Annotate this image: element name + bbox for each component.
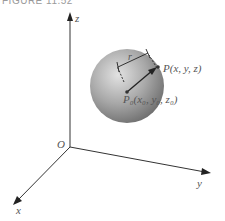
y-axis-label: y <box>196 177 202 189</box>
x-axis-label: x <box>15 204 21 216</box>
sphere-diagram: z y x O r P(x, y, z) P₀(x₀, y₀, z₀) <box>0 0 225 221</box>
z-axis <box>67 12 73 147</box>
origin-label: O <box>57 138 65 150</box>
x-axis <box>13 147 70 205</box>
point-label: P(x, y, z) <box>162 62 202 75</box>
sphere <box>90 49 164 123</box>
z-axis-label: z <box>74 12 80 24</box>
y-axis <box>70 147 211 175</box>
surface-point <box>156 65 160 69</box>
center-label: P₀(x₀, y₀, z₀) <box>122 93 178 106</box>
radius-label: r <box>128 51 132 62</box>
